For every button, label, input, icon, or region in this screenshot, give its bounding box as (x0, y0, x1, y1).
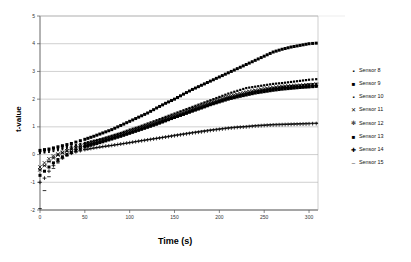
legend-marker-icon: ■ (349, 79, 358, 88)
chart-container: t-value Time (s) 050100150200250300 -2-1… (0, 0, 411, 262)
legend-item-sensor-14[interactable]: ✚Sensor 14 (349, 143, 407, 156)
legend-item-label: Sensor 13 (359, 134, 384, 139)
legend-marker-icon: ✚ (349, 145, 358, 154)
y-tick-label: 3 (22, 68, 35, 74)
legend-item-label: Sensor 10 (359, 94, 384, 99)
legend-item-sensor-10[interactable]: ▪Sensor 10 (349, 90, 407, 103)
data-points (38, 42, 318, 209)
y-tick-label: 1 (22, 123, 35, 129)
x-tick-label: 0 (34, 214, 46, 220)
legend-item-sensor-13[interactable]: ■Sensor 13 (349, 130, 407, 143)
legend-marker-icon: ▪ (349, 66, 358, 75)
legend-item-label: Sensor 12 (359, 121, 384, 126)
y-tick-label: -2 (22, 207, 35, 213)
legend-item-sensor-11[interactable]: ✕Sensor 11 (349, 104, 407, 117)
legend-item-sensor-12[interactable]: ✻Sensor 12 (349, 117, 407, 130)
legend-item-label: Sensor 9 (359, 81, 381, 86)
legend-item-sensor-15[interactable]: ‒Sensor 15 (349, 156, 407, 169)
legend-marker-icon: ▪ (349, 92, 358, 101)
y-tick-label: 2 (22, 96, 35, 102)
y-tick-label: 0 (22, 151, 35, 157)
x-tick-label: 250 (258, 214, 270, 220)
legend-marker-icon: ‒ (349, 158, 358, 167)
legend: ▪Sensor 8■Sensor 9▪Sensor 10✕Sensor 11✻S… (349, 64, 407, 170)
x-tick-label: 150 (169, 214, 181, 220)
x-axis-title: Time (s) (158, 236, 192, 246)
legend-item-label: Sensor 11 (359, 107, 383, 112)
legend-item-label: Sensor 8 (359, 68, 381, 73)
legend-marker-icon: ✕ (349, 106, 358, 115)
x-tick-label: 100 (124, 214, 136, 220)
x-tick-label: 300 (303, 214, 315, 220)
x-tick-label: 50 (79, 214, 91, 220)
y-tick-label: 5 (22, 13, 35, 19)
x-tick-label: 200 (213, 214, 225, 220)
legend-item-label: Sensor 15 (359, 160, 384, 165)
legend-item-label: Sensor 14 (359, 147, 384, 152)
legend-item-sensor-8[interactable]: ▪Sensor 8 (349, 64, 407, 77)
y-tick-label: 4 (22, 40, 35, 46)
legend-item-sensor-9[interactable]: ■Sensor 9 (349, 77, 407, 90)
y-tick-label: -1 (22, 179, 35, 185)
legend-marker-icon: ✻ (349, 119, 358, 128)
legend-marker-icon: ■ (349, 132, 358, 141)
